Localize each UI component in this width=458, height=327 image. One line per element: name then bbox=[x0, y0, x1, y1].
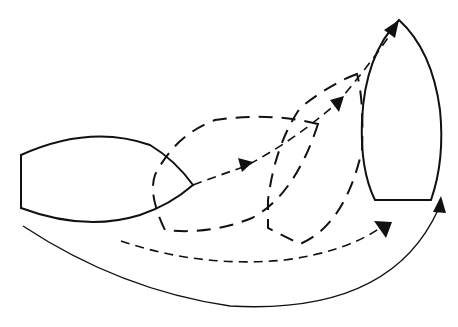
boat-start bbox=[21, 137, 193, 223]
boat-intermediate-1 bbox=[153, 117, 318, 231]
bow-track-arrow-2 bbox=[330, 96, 344, 112]
boat-intermediate-2 bbox=[268, 74, 362, 244]
stern-track bbox=[121, 228, 380, 262]
boat-end bbox=[362, 20, 442, 200]
boat-turn-diagram bbox=[0, 0, 458, 327]
bow-track bbox=[193, 26, 396, 185]
bow-track-arrow-1 bbox=[238, 158, 253, 172]
outer-turn-arc-arrow bbox=[433, 196, 446, 213]
diagram-svg bbox=[0, 0, 458, 327]
